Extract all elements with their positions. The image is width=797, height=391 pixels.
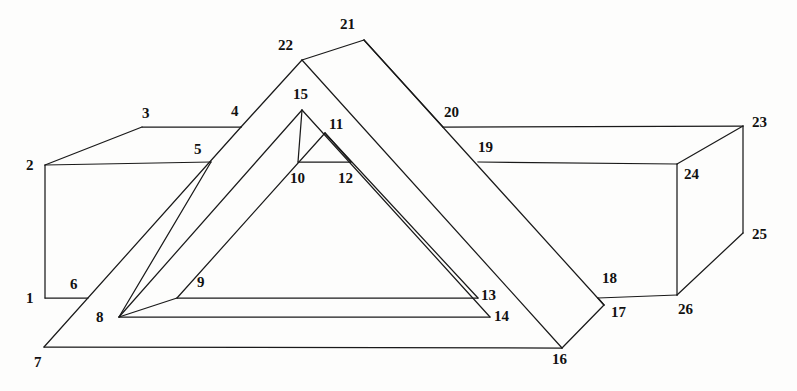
vertex-label-13: 13 [481, 288, 496, 303]
edge-inner-small-11-12 [325, 133, 351, 162]
vertex-label-6: 6 [70, 277, 78, 292]
vertex-label-9: 9 [197, 275, 205, 290]
edge-tri-apex-15-right-14 [302, 110, 490, 317]
vertex-label-1: 1 [26, 291, 34, 306]
edge-base-bottom-7-16 [44, 347, 562, 348]
edge-beam-top-22-21 [302, 40, 364, 60]
vertex-label-10: 10 [290, 171, 305, 186]
edge-slab-left-lower-5-8 [119, 162, 211, 317]
vertex-label-16: 16 [552, 352, 567, 367]
edge-tri-left-outer-8-15 [119, 110, 302, 317]
vertex-label-4: 4 [231, 104, 239, 119]
edge-group [44, 40, 743, 348]
vertex-label-19: 19 [478, 140, 493, 155]
edge-rightbox-bottom-18-26 [598, 295, 677, 298]
vertex-label-3: 3 [142, 106, 150, 121]
vertex-label-26: 26 [678, 302, 693, 317]
vertex-label-11: 11 [329, 117, 343, 132]
edge-joint-17-18 [598, 298, 604, 305]
vertex-label-12: 12 [338, 171, 353, 186]
vertex-label-25: 25 [752, 227, 767, 242]
vertex-label-7: 7 [34, 355, 42, 370]
edge-rightbox-front-19-24 [478, 162, 677, 164]
edge-beam-fold-20-21 [364, 40, 443, 127]
vertex-label-5: 5 [194, 142, 202, 157]
vertex-label-15: 15 [293, 87, 308, 102]
vertex-label-20: 20 [444, 105, 459, 120]
edge-rightbox-right-top-23-24 [677, 126, 743, 164]
vertex-label-2: 2 [26, 158, 34, 173]
vertex-label-8: 8 [96, 310, 104, 325]
vertex-label-14: 14 [494, 309, 509, 324]
vertex-label-21: 21 [340, 17, 355, 32]
edge-beam-left-22-16 [302, 60, 562, 348]
vertex-label-22: 22 [278, 38, 293, 53]
edge-ramp-7-4 [44, 127, 241, 347]
edge-rightbox-corner-25-26 [677, 233, 743, 295]
vertex-label-18: 18 [602, 271, 617, 286]
figure-canvas: 1234567891011121314151617181920212223242… [0, 0, 797, 391]
wireframe-svg [0, 0, 797, 391]
edge-box-front-top-2-5 [45, 162, 211, 165]
vertex-label-17: 17 [611, 305, 626, 320]
edge-beam-bottom-16-17 [562, 305, 604, 348]
edge-rightbox-top-20-23 [443, 126, 743, 127]
vertex-label-23: 23 [752, 115, 767, 130]
vertex-label-24: 24 [684, 167, 699, 182]
edge-box-top-left-2-3 [45, 127, 142, 165]
edge-inner-small-15-10 [298, 110, 302, 162]
